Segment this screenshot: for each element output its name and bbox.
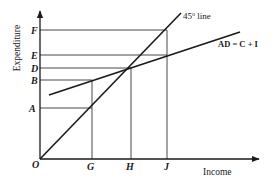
y-label-f: F [30, 25, 38, 36]
y-label-b: B [30, 75, 38, 86]
horizontal-guides [40, 30, 167, 108]
y-label-d: D [30, 63, 38, 74]
x-axis-title: Income [203, 167, 232, 177]
x-label-j: J [163, 161, 170, 172]
origin-label: O [32, 159, 39, 170]
forty-five-line-label: 45o line [183, 11, 211, 21]
keynesian-cross-diagram: Expenditure Income O F E D B A G H J 45o… [0, 0, 275, 181]
x-label-g: G [87, 161, 95, 172]
y-label-a: A [28, 103, 36, 114]
x-label-h: H [125, 161, 135, 172]
forty-five-degree-line [40, 13, 181, 159]
y-label-e: E [30, 50, 38, 61]
aggregate-demand-label: AD = C + I [218, 39, 259, 49]
y-axis-title: Expenditure [12, 25, 22, 71]
aggregate-demand-line [49, 32, 240, 95]
forty-five-tail: line [195, 11, 211, 21]
